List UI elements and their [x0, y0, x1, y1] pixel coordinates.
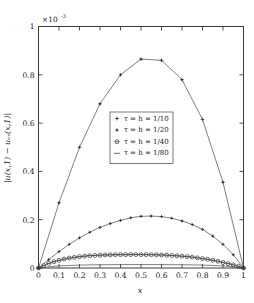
x-tick-label: 0.8 [196, 271, 208, 280]
plus-marker [88, 231, 91, 234]
plus-marker [201, 118, 205, 122]
y-axis-label: |u(x,1) − uₑₓ(x,1)| [3, 113, 12, 183]
y-tick-label: 0.2 [22, 216, 34, 225]
exponent-value: -3 [61, 13, 66, 19]
error-plot: ×10 -3 |u(x,1) − uₑₓ(x,1)| x 00.20.40.60… [0, 0, 254, 303]
plus-marker [119, 219, 122, 222]
x-tick-label: 0.6 [155, 271, 167, 280]
plus-marker [98, 226, 101, 229]
y-tick-label: 0.4 [22, 167, 34, 176]
x-tick-label: 0.1 [53, 271, 65, 280]
legend-entry-label[interactable]: τ = h = 1/40 [124, 138, 169, 146]
legend-entry-label[interactable]: τ = h = 1/20 [124, 126, 169, 134]
figure-container: ×10 -3 |u(x,1) − uₑₓ(x,1)| x 00.20.40.60… [0, 0, 254, 303]
legend-entry-label[interactable]: τ = h = 1/80 [124, 149, 169, 157]
exponent-prefix: ×10 [42, 15, 58, 24]
plus-marker [150, 214, 153, 217]
plus-marker [57, 201, 61, 205]
x-tick-label: 0.7 [176, 271, 188, 280]
plus-marker [160, 215, 163, 218]
legend-entry-label[interactable]: τ = h = 1/10 [124, 115, 169, 123]
x-tick-label: 0.2 [73, 271, 85, 280]
y-tick-label: 0.8 [22, 71, 34, 80]
y-tick-label: 1 [30, 22, 35, 31]
y-tick-labels: 00.20.40.60.81 [22, 22, 34, 272]
plus-marker [78, 145, 82, 149]
x-tick-labels: 00.10.20.30.40.50.60.70.80.91 [36, 271, 246, 280]
plus-marker [129, 216, 132, 219]
x-tick-label: 1 [241, 271, 246, 280]
plus-marker [191, 223, 194, 226]
x-tick-label: 0.5 [135, 271, 147, 280]
plus-marker [221, 180, 225, 184]
x-tick-label: 0.4 [114, 271, 126, 280]
x-tick-label: 0 [36, 271, 41, 280]
x-tick-label: 0.9 [217, 271, 229, 280]
legend[interactable]: τ = h = 1/10τ = h = 1/20τ = h = 1/40τ = … [110, 112, 173, 163]
y-tick-label: 0 [30, 264, 35, 273]
y-tick-label: 0.6 [22, 119, 34, 128]
y-axis-label-group: |u(x,1) − uₑₓ(x,1)| [3, 113, 12, 183]
plus-marker [139, 215, 142, 218]
x-tick-label: 0.3 [94, 271, 106, 280]
x-axis-label-group: x [138, 286, 143, 295]
plus-marker [180, 219, 183, 222]
x-axis-label: x [138, 286, 143, 295]
plus-marker [170, 217, 173, 220]
plus-marker [109, 222, 112, 225]
y-axis-exponent: ×10 -3 [42, 13, 66, 24]
